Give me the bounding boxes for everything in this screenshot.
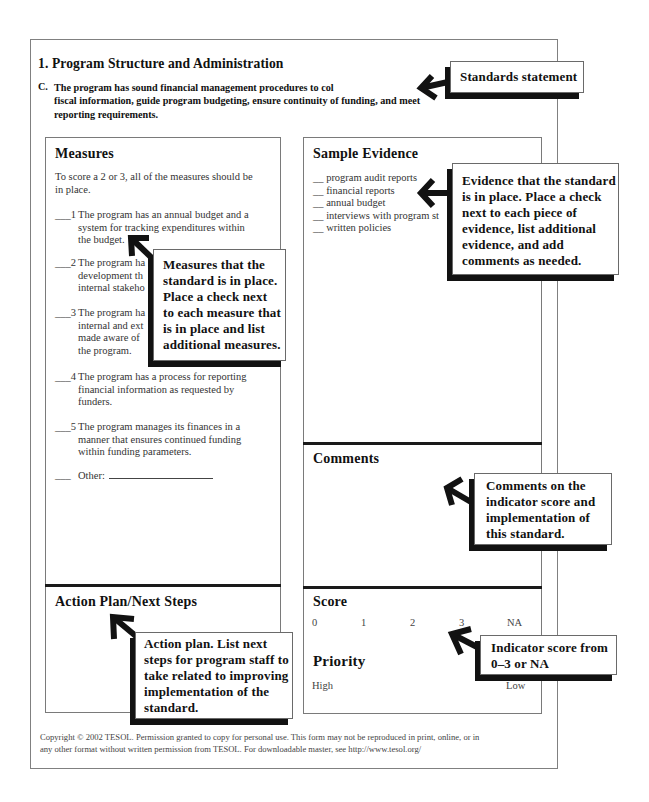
callout-text: next to each piece of [462,205,618,221]
callout-text: Measures that the [163,257,285,273]
callout-text: standard. [144,700,292,716]
callout-text: indicator score and [486,494,611,510]
callout-text: Standards statement [460,69,583,85]
callout-text: Action plan. List next [144,636,292,652]
callout-score: Indicator score from 0–3 or NA [480,635,617,675]
callout-measures: Measures that the standard is in place. … [153,249,286,361]
callout-text: is in place. Place a check [462,189,618,205]
callout-text: evidence, list additional [462,221,618,237]
callout-text: Comments on the [486,478,611,494]
callout-text: take related to improving [144,668,292,684]
callout-comments: Comments on the indicator score and impl… [474,473,612,545]
callout-standards: Standards statement [450,61,584,93]
callout-text: 0–3 or NA [491,656,616,672]
callout-text: implementation of the [144,684,292,700]
callout-text: Indicator score from [491,640,616,656]
callout-text: to each measure that [163,305,285,321]
arrow-icon-standards [421,76,448,98]
arrow-icon-action-plan [113,617,137,639]
callout-text: Place a check next [163,289,285,305]
callout-text: Evidence that the standard [462,173,618,189]
callout-text: this standard. [486,526,611,542]
arrow-icon-measures [131,238,154,260]
callout-text: steps for program staff to [144,652,292,668]
callout-arrows [0,0,649,802]
arrow-icon-evidence [421,180,449,206]
callout-text: standard is in place. [163,273,285,289]
arrow-icon-score [452,629,479,654]
callout-text: is in place and list [163,321,285,337]
callout-action-plan: Action plan. List next steps for program… [135,632,293,719]
callout-evidence: Evidence that the standard is in place. … [452,163,619,275]
callout-text: comments as needed. [462,253,618,269]
callout-text: implementation of [486,510,611,526]
callout-text: evidence, and add [462,237,618,253]
callout-text: additional measures. [163,337,285,353]
arrow-icon-comments [447,479,471,505]
